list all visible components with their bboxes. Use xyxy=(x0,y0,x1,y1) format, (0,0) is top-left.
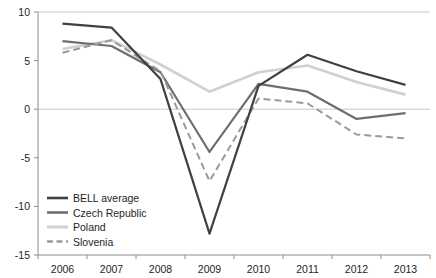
x-tick-label: 2013 xyxy=(394,263,418,275)
x-tick-label: 2010 xyxy=(247,263,271,275)
y-tick-label: -15 xyxy=(15,249,30,261)
y-tick-label: 5 xyxy=(24,55,30,67)
chart-plot-area: 1050-5-10-152006200720082009201020112012… xyxy=(0,0,436,278)
legend-item-label: BELL average xyxy=(73,192,139,204)
x-tick-label: 2008 xyxy=(149,263,173,275)
y-tick-label: -5 xyxy=(21,152,30,164)
y-tick-label: 0 xyxy=(24,103,30,115)
series-line-czech-republic xyxy=(63,41,406,152)
x-tick-label: 2011 xyxy=(296,263,319,275)
legend-item-label: Poland xyxy=(73,221,106,233)
line-chart: 1050-5-10-152006200720082009201020112012… xyxy=(0,0,436,278)
x-tick-label: 2012 xyxy=(345,263,369,275)
x-tick-label: 2007 xyxy=(100,263,124,275)
legend-item-label: Slovenia xyxy=(73,236,113,248)
legend-item-label: Czech Republic xyxy=(73,207,147,219)
y-tick-label: -10 xyxy=(15,200,30,212)
y-tick-label: 10 xyxy=(18,6,30,18)
x-tick-label: 2009 xyxy=(198,263,222,275)
x-tick-label: 2006 xyxy=(51,263,75,275)
